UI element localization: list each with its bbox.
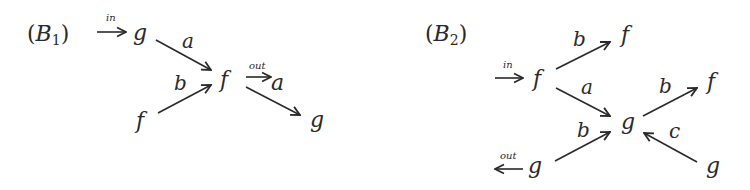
b2-edge-label-b-bottom: b [577, 118, 590, 142]
b2-node-g-center: g [621, 109, 635, 134]
b2-node-g-right: g [706, 153, 720, 178]
b1-edge-label-b: b [174, 71, 187, 95]
b2-edge-label-b-top: b [573, 27, 586, 51]
b2-edge-label-b-right: b [659, 74, 672, 98]
b1-node-g-in: g [133, 20, 147, 45]
b2-output-label: out [500, 150, 517, 161]
b1-node-f-center: f [218, 67, 232, 92]
diagram-b2: (B2) in f f g f g g b a b c b out [425, 21, 720, 178]
b1-input-label: in [106, 12, 116, 23]
b2-edge-label-c: c [669, 119, 680, 143]
diagram-canvas: (B1) in g f f a g a b out (B2) in f f g … [0, 0, 750, 190]
b2-node-f-right: f [705, 69, 719, 94]
b2-edge-label-a: a [581, 75, 593, 99]
b2-node-f-top: f [619, 22, 633, 47]
b1-node-g-right: g [310, 107, 324, 132]
b1-edge-label-a: a [182, 29, 194, 53]
diagram-b2-title: (B2) [425, 21, 467, 48]
b2-node-g-out: g [528, 153, 542, 178]
b2-node-f-in: f [531, 66, 545, 91]
b2-input-label: in [503, 59, 513, 70]
b1-node-f-left: f [134, 108, 148, 133]
b1-node-a-out: a [271, 70, 284, 95]
b1-output-label: out [249, 60, 266, 71]
diagram-b1-title: (B1) [27, 21, 69, 48]
diagram-b1: (B1) in g f f a g a b out [27, 12, 324, 133]
